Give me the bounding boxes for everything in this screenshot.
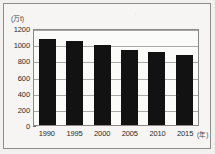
bar	[66, 41, 83, 125]
x-axis-tick-label: 2015	[177, 129, 193, 138]
y-axis-unit-label: (万t)	[11, 13, 24, 23]
y-axis-tick-label: 1200	[4, 25, 30, 34]
y-axis-tick-label: 400	[4, 89, 30, 98]
x-axis-tick-label: 2005	[122, 129, 138, 138]
y-axis-tick-labels: 020040060080010001200	[3, 29, 30, 126]
y-axis-tick-mark	[33, 126, 36, 127]
y-axis-tick-label: 800	[4, 57, 30, 66]
bar	[121, 50, 138, 125]
bar	[148, 52, 165, 125]
bars-layer	[34, 30, 198, 125]
y-axis-tick-label: 0	[4, 122, 30, 131]
x-axis-tick-label: 2010	[149, 129, 165, 138]
y-axis-tick-label: 600	[4, 73, 30, 82]
x-axis-tick-label: 2000	[94, 129, 110, 138]
bar	[94, 45, 111, 125]
y-axis-tick-label: 1000	[4, 41, 30, 50]
x-axis-tick-labels: 199019952000200520102015	[33, 128, 199, 139]
y-axis-tick-label: 200	[4, 105, 30, 114]
x-axis-tick-label: 1990	[39, 129, 55, 138]
plot-area	[33, 29, 199, 126]
x-axis-unit-label: (年)	[197, 129, 208, 139]
x-axis-tick-label: 1995	[66, 129, 82, 138]
bar	[39, 39, 56, 125]
bar	[176, 55, 193, 125]
chart-figure: (万t) 020040060080010001200 1990199520002…	[0, 0, 215, 154]
